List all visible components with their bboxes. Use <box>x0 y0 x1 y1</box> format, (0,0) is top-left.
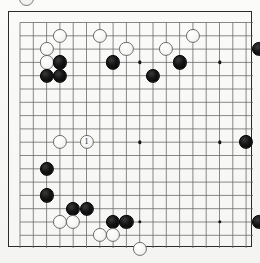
white-stone[interactable] <box>93 228 107 242</box>
hoshi-point <box>138 61 141 64</box>
black-stone[interactable] <box>146 69 160 83</box>
black-stone[interactable] <box>53 55 67 69</box>
white-stone[interactable] <box>40 42 54 56</box>
move-number-label: 1 <box>80 136 92 148</box>
white-stone-fragment-icon <box>19 0 34 6</box>
black-stone[interactable] <box>40 162 54 176</box>
hoshi-point <box>218 61 221 64</box>
white-stone[interactable] <box>66 215 80 229</box>
black-stone[interactable] <box>119 215 133 229</box>
board-surface[interactable]: 1 <box>9 12 251 246</box>
stone-layer[interactable]: 1 <box>9 12 251 246</box>
hoshi-point <box>218 220 221 223</box>
white-stone[interactable] <box>53 135 67 149</box>
white-stone[interactable] <box>40 55 54 69</box>
black-stone[interactable] <box>252 215 260 229</box>
go-board[interactable]: 1 <box>8 11 252 247</box>
move-stone-1[interactable]: 1 <box>79 135 93 149</box>
white-stone[interactable] <box>119 42 133 56</box>
hoshi-point <box>218 140 221 143</box>
black-stone[interactable] <box>252 42 260 56</box>
white-stone[interactable] <box>93 29 107 43</box>
white-stone[interactable] <box>53 215 67 229</box>
black-stone[interactable] <box>53 69 67 83</box>
white-stone[interactable] <box>186 29 200 43</box>
black-stone[interactable] <box>106 215 120 229</box>
black-stone[interactable] <box>106 55 120 69</box>
black-stone[interactable] <box>40 188 54 202</box>
white-stone[interactable] <box>106 228 120 242</box>
black-stone[interactable] <box>40 69 54 83</box>
hoshi-point <box>138 140 141 143</box>
black-stone[interactable] <box>66 202 80 216</box>
white-stone[interactable] <box>53 29 67 43</box>
black-stone[interactable] <box>173 55 187 69</box>
black-stone[interactable] <box>79 202 93 216</box>
white-stone[interactable] <box>133 242 147 256</box>
page-background: 1 <box>0 0 260 263</box>
white-stone[interactable] <box>159 42 173 56</box>
hoshi-point <box>138 220 141 223</box>
